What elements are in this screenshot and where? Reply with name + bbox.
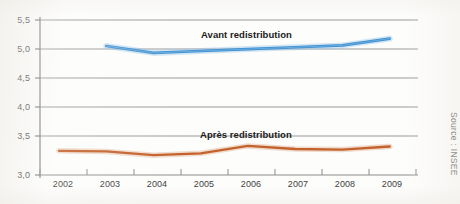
xtick-label-2005: 2005 xyxy=(182,179,226,189)
xtick-label-2003: 2003 xyxy=(88,179,132,189)
xtick-label-2006: 2006 xyxy=(229,179,273,189)
y-axis xyxy=(35,17,40,178)
source-note: Source : INSEE xyxy=(449,112,459,176)
series-label-avant: Avant redistribution xyxy=(201,29,292,40)
xtick-label-2007: 2007 xyxy=(276,179,320,189)
ytick-label: 4,5 xyxy=(2,73,30,83)
x-axis-ticks xyxy=(40,169,416,175)
ytick-label: 3,5 xyxy=(2,131,30,141)
ytick-label: 5,5 xyxy=(2,15,30,25)
series-label-apres: Après redistribution xyxy=(200,129,292,140)
ytick-label: 4,0 xyxy=(2,102,30,112)
xtick-label-2004: 2004 xyxy=(135,179,179,189)
xtick-label-2008: 2008 xyxy=(323,179,367,189)
ytick-label: 5,0 xyxy=(2,44,30,54)
ytick-label: 3,0 xyxy=(2,170,30,180)
xtick-label-2009: 2009 xyxy=(370,179,414,189)
chart-figure: 5,5 5,0 4,5 4,0 3,5 3,0 2002 2003 2004 2… xyxy=(0,0,460,204)
xtick-label-2002: 2002 xyxy=(41,179,85,189)
